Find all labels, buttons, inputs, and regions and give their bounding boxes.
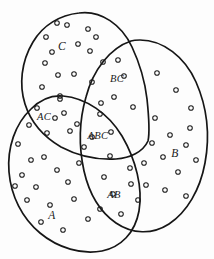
dot — [68, 129, 73, 134]
dot — [42, 155, 47, 160]
dot — [142, 161, 147, 166]
dot — [58, 97, 63, 102]
dot — [176, 170, 181, 175]
dot — [56, 73, 61, 78]
dot — [39, 220, 44, 225]
dot — [144, 183, 149, 188]
dot — [61, 228, 66, 233]
dot — [112, 95, 117, 100]
dot — [72, 72, 77, 77]
dot — [98, 112, 103, 117]
dot — [108, 154, 113, 159]
dot — [75, 122, 80, 127]
dot — [194, 158, 199, 163]
dot-group-b — [142, 71, 199, 199]
dot — [189, 106, 194, 111]
region-label-ac: AC — [36, 111, 52, 122]
dot — [150, 141, 155, 146]
dot — [77, 161, 82, 166]
set-a-outline — [9, 96, 140, 252]
region-label-ab: AB — [106, 189, 121, 200]
venn-diagram-canvas: C BC AC ABC B AB A — [0, 0, 214, 259]
dot — [66, 180, 71, 185]
dot — [161, 155, 166, 160]
dot — [29, 158, 34, 163]
dot — [184, 194, 189, 199]
dot — [27, 123, 32, 128]
dot — [119, 212, 124, 217]
region-label-abc: ABC — [86, 130, 109, 141]
region-label-b: B — [171, 147, 178, 159]
dot — [20, 173, 25, 178]
dot — [82, 145, 87, 150]
dot — [86, 217, 91, 222]
dot — [174, 88, 179, 93]
dot — [102, 175, 107, 180]
dot — [13, 184, 18, 189]
dot — [72, 197, 77, 202]
dot — [50, 50, 55, 55]
set-c-outline — [22, 13, 149, 160]
dot — [34, 185, 39, 190]
dot — [44, 35, 49, 40]
dot — [45, 131, 50, 136]
dot — [168, 133, 173, 138]
dot — [184, 143, 189, 148]
venn-diagram-svg: C BC AC ABC B AB A — [0, 0, 214, 259]
dot — [153, 116, 158, 121]
dot — [65, 23, 70, 28]
dot — [55, 21, 60, 26]
dot — [94, 35, 99, 40]
dot — [128, 166, 133, 171]
dot — [131, 105, 136, 110]
dot — [109, 130, 114, 135]
dot — [86, 27, 91, 32]
region-label-c: C — [58, 40, 66, 52]
dot — [43, 61, 48, 66]
dot — [116, 58, 121, 63]
dot — [53, 116, 58, 121]
dot — [129, 182, 134, 187]
dot — [155, 71, 160, 76]
dot — [163, 188, 168, 193]
dot — [62, 111, 67, 116]
dot — [35, 106, 40, 111]
dot — [25, 198, 30, 203]
dot — [188, 126, 193, 131]
dot — [99, 101, 104, 106]
dot — [48, 203, 53, 208]
dot — [16, 142, 21, 147]
dot — [76, 42, 81, 47]
dot — [55, 168, 60, 173]
region-label-bc: BC — [110, 73, 125, 84]
dot — [88, 49, 93, 54]
dot — [40, 85, 45, 90]
region-label-a: A — [47, 209, 56, 221]
